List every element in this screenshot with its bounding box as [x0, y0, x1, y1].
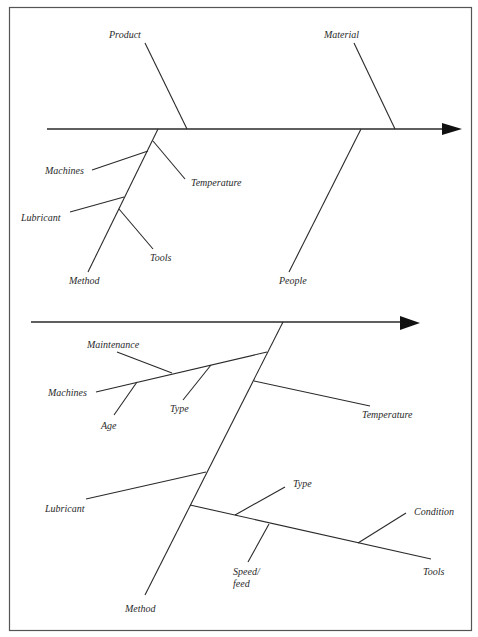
- bottom-label-speed: Speed/: [233, 566, 261, 577]
- bottom-label-lubricant: Lubricant: [44, 503, 85, 514]
- bottom-label-feed: feed: [233, 578, 251, 589]
- bottom-label-age: Age: [100, 420, 117, 431]
- bottom-arrowhead-icon: [400, 316, 420, 330]
- top-label-product: Product: [108, 29, 141, 40]
- top-bone-lubricant: [70, 197, 124, 212]
- top-fishbone-diagram: Product Material Method Temperature Mach…: [20, 29, 462, 286]
- top-label-temperature: Temperature: [191, 177, 242, 188]
- bottom-label-machines: Machines: [47, 387, 87, 398]
- bottom-label-tools: Tools: [423, 566, 444, 577]
- top-bone-people: [289, 129, 361, 272]
- bottom-bone-speed-feed: [248, 524, 269, 562]
- bottom-label-condition: Condition: [414, 506, 454, 517]
- bottom-label-type-machines: Type: [170, 403, 189, 414]
- top-label-material: Material: [323, 29, 359, 40]
- bottom-label-maintenance: Maintenance: [86, 339, 140, 350]
- bottom-bone-temperature: [254, 381, 370, 406]
- bottom-label-type-tools: Type: [293, 478, 312, 489]
- fishbone-figure: Product Material Method Temperature Mach…: [0, 0, 478, 637]
- top-label-method: Method: [68, 275, 101, 286]
- top-arrowhead-icon: [442, 123, 462, 135]
- bottom-bone-method: [145, 322, 283, 595]
- top-bone-material: [354, 43, 395, 129]
- bottom-bone-condition: [358, 513, 406, 543]
- top-bone-temperature: [153, 141, 185, 179]
- bottom-bone-maintenance: [117, 352, 172, 373]
- top-bone-method: [88, 129, 158, 272]
- top-label-people: People: [278, 275, 307, 286]
- bottom-bone-type-tools: [235, 487, 285, 515]
- bottom-fishbone-diagram: Method Machines Maintenance Type Age Tem…: [31, 316, 454, 614]
- bottom-bone-lubricant: [86, 472, 206, 499]
- top-bone-tools: [119, 209, 153, 249]
- top-label-lubricant: Lubricant: [20, 212, 61, 223]
- bottom-label-method: Method: [124, 603, 157, 614]
- top-label-tools: Tools: [150, 252, 171, 263]
- bottom-bone-tools: [190, 505, 431, 559]
- bottom-bone-machines: [96, 352, 267, 392]
- top-bone-product: [145, 43, 187, 129]
- top-label-machines: Machines: [44, 165, 84, 176]
- bottom-label-temperature: Temperature: [362, 409, 413, 420]
